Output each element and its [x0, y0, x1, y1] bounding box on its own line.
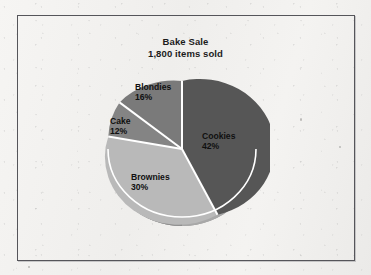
chart-title-main: Bake Sale [0, 36, 371, 48]
pie-top-face [105, 79, 270, 225]
pie-svg [100, 66, 270, 238]
pie-label-blondies-name: Blondies [135, 82, 171, 92]
pie-chart [100, 66, 270, 238]
pie-label-blondies-value: 16% [135, 92, 171, 102]
pie-label-cake: Cake 12% [110, 116, 131, 137]
chart-title: Bake Sale 1,800 items sold [0, 36, 371, 59]
scan-speck [28, 266, 30, 268]
pie-chart-screenshot: Bake Sale 1,800 items sold [0, 0, 371, 275]
chart-subtitle: 1,800 items sold [0, 48, 371, 60]
pie-label-cookies-name: Cookies [202, 131, 235, 141]
pie-label-cake-value: 12% [110, 126, 131, 136]
pie-label-cookies: Cookies 42% [202, 131, 235, 152]
pie-label-brownies-value: 30% [131, 182, 170, 192]
pie-label-brownies: Brownies 30% [131, 172, 170, 193]
pie-label-cake-name: Cake [110, 116, 131, 126]
pie-label-blondies: Blondies 16% [135, 82, 171, 103]
pie-label-cookies-value: 42% [202, 141, 235, 151]
pie-label-brownies-name: Brownies [131, 172, 170, 182]
